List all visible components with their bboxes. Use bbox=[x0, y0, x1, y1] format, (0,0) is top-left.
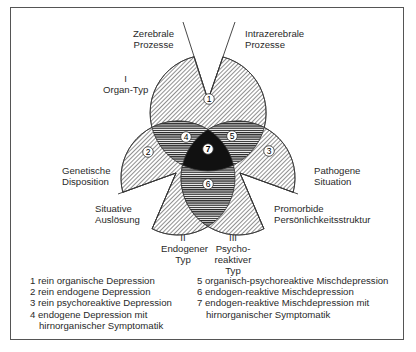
label-situative-ausloesung: Situative Auslösung bbox=[95, 203, 140, 225]
legend-item-6: 6 endogen-reaktive Mischdepression bbox=[197, 286, 388, 297]
legend-item-4-continued: hirnorganischer Symptomatik bbox=[30, 320, 172, 331]
svg-text:2: 2 bbox=[146, 147, 151, 157]
label-line: Zerebrale bbox=[133, 28, 174, 39]
label-line: Pathogene bbox=[314, 165, 360, 176]
region-marker-7: 7 bbox=[203, 144, 214, 155]
svg-text:3: 3 bbox=[267, 146, 272, 156]
label-line: Psycho- bbox=[211, 243, 255, 254]
svg-text:1: 1 bbox=[207, 94, 212, 104]
legend-item-3: 3 rein psychoreaktive Depression bbox=[30, 297, 172, 308]
legend-item-7: 7 endogen-reaktive Mischdepression mit bbox=[197, 297, 388, 308]
svg-text:6: 6 bbox=[206, 179, 211, 189]
label-promorbide-persoenlichkeitsstruktur: Promorbide Persönlichkeitsstruktur bbox=[274, 203, 371, 225]
label-line: Typ bbox=[161, 254, 205, 265]
label-psychoreaktiver-typ: III Psycho- reaktiver Typ bbox=[211, 232, 255, 276]
legend-item-1: 1 rein organische Depression bbox=[30, 275, 172, 286]
label-organ-typ: I Organ-Typ bbox=[103, 73, 148, 95]
label-line: reaktiver bbox=[211, 254, 255, 265]
label-line: Persönlichkeitsstruktur bbox=[274, 214, 371, 225]
label-line: Auslösung bbox=[95, 214, 140, 225]
label-intrazerebrale-prozesse: Intrazerebrale Prozesse bbox=[245, 28, 304, 50]
label-line: Situation bbox=[314, 176, 360, 187]
legend-item-5: 5 organisch-psychoreaktive Mischdepressi… bbox=[197, 275, 388, 286]
label-zerebrale-prozesse: Zerebrale Prozesse bbox=[133, 28, 174, 50]
label-line: Situative bbox=[95, 203, 140, 214]
legend-left: 1 rein organische Depression 2 rein endo… bbox=[30, 275, 172, 331]
legend-item-4: 4 endogene Depression mit bbox=[30, 309, 172, 320]
svg-text:5: 5 bbox=[230, 131, 235, 141]
label-line: III bbox=[211, 232, 255, 243]
region-marker-1: 1 bbox=[204, 94, 215, 105]
label-pathogene-situation: Pathogene Situation bbox=[314, 165, 360, 187]
legend-item-2: 2 rein endogene Depression bbox=[30, 286, 172, 297]
label-line: Prozesse bbox=[133, 39, 174, 50]
label-endogener-typ: II Endogener Typ bbox=[161, 232, 205, 265]
svg-text:4: 4 bbox=[184, 132, 189, 142]
label-line: Prozesse bbox=[245, 39, 304, 50]
svg-text:7: 7 bbox=[206, 144, 211, 154]
legend-item-7-continued: hirnorganischer Symptomatik bbox=[197, 309, 388, 320]
label-line: Promorbide bbox=[274, 203, 371, 214]
label-line: Genetische bbox=[62, 165, 111, 176]
label-genetische-disposition: Genetische Disposition bbox=[62, 165, 111, 187]
region-marker-2: 2 bbox=[143, 147, 154, 158]
label-line: Intrazerebrale bbox=[245, 28, 304, 39]
label-line: Disposition bbox=[62, 176, 111, 187]
label-line: Organ-Typ bbox=[103, 84, 148, 95]
legend-right: 5 organisch-psychoreaktive Mischdepressi… bbox=[197, 275, 388, 320]
label-line: Endogener bbox=[161, 243, 205, 254]
label-line: II bbox=[161, 232, 205, 243]
region-marker-3: 3 bbox=[264, 146, 275, 157]
region-marker-6: 6 bbox=[203, 179, 214, 190]
label-line: I bbox=[103, 73, 148, 84]
region-marker-4: 4 bbox=[181, 132, 192, 143]
region-marker-5: 5 bbox=[227, 131, 238, 142]
